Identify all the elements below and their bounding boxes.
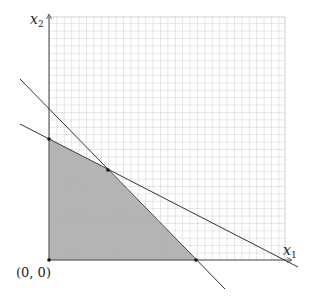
origin-point xyxy=(47,258,51,262)
y-axis-label: x2 xyxy=(30,11,44,29)
y-intercept-vertex xyxy=(47,137,51,141)
x-axis-label: x1 xyxy=(283,242,297,260)
lp-diagram: x2 x1 (0, 0) xyxy=(0,0,315,307)
grid xyxy=(49,17,285,260)
origin-label: (0, 0) xyxy=(16,265,51,280)
x-intercept-vertex xyxy=(194,258,198,262)
intersection-vertex xyxy=(106,168,110,172)
